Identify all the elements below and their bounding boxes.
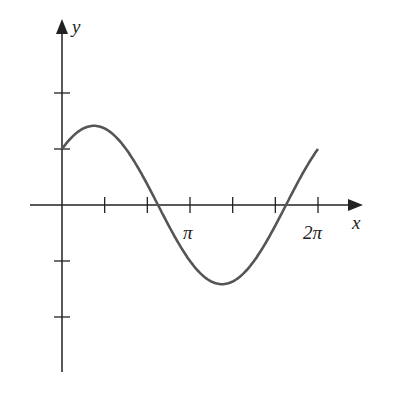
pi-tick-label: π bbox=[183, 222, 193, 244]
two-pi-tick-label: 2π bbox=[303, 222, 322, 244]
graph bbox=[0, 0, 397, 409]
x-axis-label: x bbox=[352, 212, 360, 234]
y-axis-label: y bbox=[72, 16, 80, 38]
